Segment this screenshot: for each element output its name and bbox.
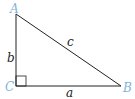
right-triangle-diagram: A C B b a c [0, 0, 135, 99]
vertex-label-c: C [5, 80, 14, 94]
side-label-a: a [66, 86, 73, 99]
side-label-c: c [67, 35, 74, 49]
vertex-label-a: A [9, 2, 19, 16]
vertex-label-b: B [122, 81, 132, 95]
triangle [16, 14, 121, 86]
right-angle-marker [16, 76, 26, 86]
side-label-b: b [7, 51, 15, 65]
